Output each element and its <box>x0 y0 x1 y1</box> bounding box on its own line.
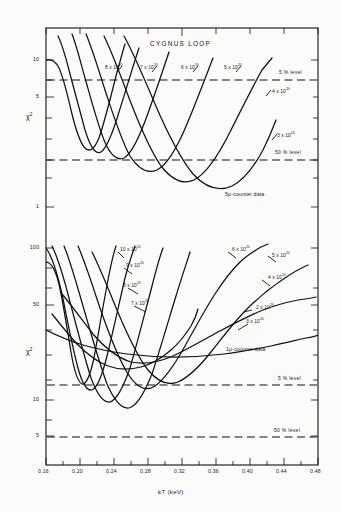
ytick-top-2: 1 <box>36 204 39 209</box>
curve-label-top-3e20: 3 x 1020 <box>277 132 295 139</box>
ytick-top-0: 10 <box>33 57 39 62</box>
bottom-panel-y-ticks-right <box>311 248 318 436</box>
x-axis-title: kT (keV) <box>158 489 184 495</box>
curve-label-bot-7e20: 7 x 1020 <box>131 300 149 307</box>
chart-canvas <box>0 0 342 512</box>
bottom-panel-y-ticks <box>46 248 54 436</box>
y-axis-title-top: χ2 <box>26 113 32 120</box>
xtick-5: 0.36 <box>208 469 219 474</box>
level-label-bot-5pct: 5 % level <box>278 376 301 381</box>
xtick-6: 0.40 <box>242 469 253 474</box>
curve-label-bot-9e20: 9 x 1020 <box>126 262 144 269</box>
curve-8e20-top <box>46 44 125 150</box>
top-panel-y-ticks <box>46 60 54 207</box>
x-axis-ticks <box>46 458 318 465</box>
level-label-top-5pct: 5 % level <box>279 70 302 75</box>
figure-container: CYGNUS LOOP χ2 χ2 10 5 1 100 50 10 5 0.1… <box>0 0 342 512</box>
curve-label-top-4e20: 4 x 1020 <box>272 88 290 95</box>
level-label-bot-50pct: 50 % level <box>274 428 300 433</box>
xtick-3: 0.28 <box>140 469 151 474</box>
curve-label-top-7e20: 7 x 1020 <box>140 64 158 71</box>
curve-label-top-8e20: 8 x 1020 <box>105 64 123 71</box>
page-title: CYGNUS LOOP <box>150 41 211 47</box>
curve-label-top-6e20: 6 x 1020 <box>181 64 199 71</box>
curve-7e20-top <box>58 36 139 153</box>
curve-label-bot-2e20: 2 x 1020 <box>256 304 274 311</box>
y-axis-title-bottom: χ2 <box>26 348 32 355</box>
curve-5e20-bot <box>92 252 308 384</box>
label-leaders <box>117 66 277 330</box>
ytick-bot-3: 5 <box>36 433 39 438</box>
ytick-bot-0: 100 <box>30 245 39 250</box>
curve-label-top-5e20: 5 x 1020 <box>224 64 242 71</box>
curve-5e20-top <box>86 34 213 171</box>
xtick-7: 0.44 <box>276 469 287 474</box>
xtick-1: 0.20 <box>72 469 83 474</box>
top-panel-curves <box>46 34 276 189</box>
curve-label-bot-5e20: 5 x 1020 <box>272 252 290 259</box>
level-label-top-50pct: 50 % level <box>275 150 301 155</box>
ytick-bot-1: 50 <box>33 302 39 307</box>
curve-label-bot-10e20: 10 x 1020 <box>120 246 141 253</box>
curve-label-bot-8e20: 8 x 1020 <box>123 282 141 289</box>
curve-label-bot-4e20: 4 x 1020 <box>268 274 286 281</box>
panel-note-top: 5μ-counter data <box>225 192 264 197</box>
curve-6e20-top <box>72 34 169 159</box>
ytick-bot-2: 10 <box>33 397 39 402</box>
xtick-0: 0.16 <box>38 469 49 474</box>
xtick-8: 0.48 <box>310 469 321 474</box>
curve-label-bot-6e20: 6 x 1020 <box>232 246 250 253</box>
top-panel-y-ticks-right <box>311 60 318 207</box>
xtick-4: 0.32 <box>174 469 185 474</box>
curve-label-bot-3e20: 3 x 1020 <box>246 318 264 325</box>
xtick-2: 0.24 <box>106 469 117 474</box>
ytick-top-1: 5 <box>36 94 39 99</box>
curve-3e20-top <box>124 36 276 189</box>
panel-note-bottom: 1μ-counter data <box>226 347 265 352</box>
bottom-panel-curves <box>46 244 318 408</box>
